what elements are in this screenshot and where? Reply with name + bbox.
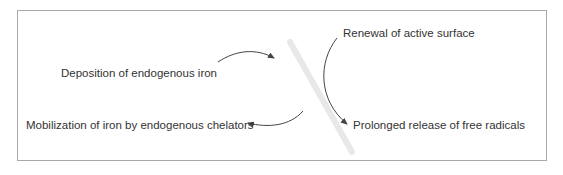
- arrow-deposition-icon: [218, 52, 274, 62]
- node-release: Prolonged release of free radicals: [353, 118, 525, 132]
- watermark-band: [290, 42, 352, 152]
- arrow-mobilization-icon: [248, 111, 303, 125]
- node-deposition: Deposition of endogenous iron: [61, 66, 217, 80]
- diagram-arrows: [0, 0, 563, 175]
- node-renewal: Renewal of active surface: [343, 26, 475, 40]
- node-mobilization: Mobilization of iron by endogenous chela…: [26, 118, 254, 132]
